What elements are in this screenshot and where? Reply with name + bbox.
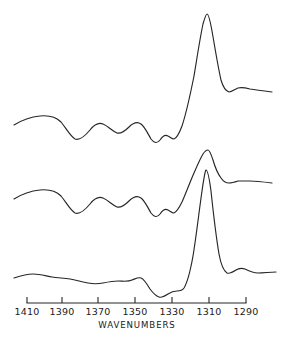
x-axis-tick-label-3: 1350 (123, 306, 148, 317)
x-axis-tick-label-5: 1310 (197, 306, 222, 317)
x-axis-tick-label-2: 1370 (86, 306, 111, 317)
x-axis-tick-label-4: 1330 (160, 306, 185, 317)
x-axis-tick-label-0: 1410 (15, 306, 40, 317)
spectra-svg: 1410 1390 1370 1350 1330 1310 1290 WAVEN… (0, 0, 286, 340)
x-axis-tick-label-1: 1390 (50, 306, 75, 317)
x-axis: 1410 1390 1370 1350 1330 1310 1290 WAVEN… (15, 297, 259, 330)
trace-group (14, 14, 276, 297)
x-axis-tick-label-6: 1290 (234, 306, 259, 317)
trace-spectrum-middle (14, 150, 272, 217)
x-axis-title: WAVENUMBERS (98, 320, 175, 330)
spectra-figure: 1410 1390 1370 1350 1330 1310 1290 WAVEN… (0, 0, 286, 340)
trace-spectrum-top (14, 14, 272, 143)
trace-spectrum-bottom (14, 170, 276, 297)
